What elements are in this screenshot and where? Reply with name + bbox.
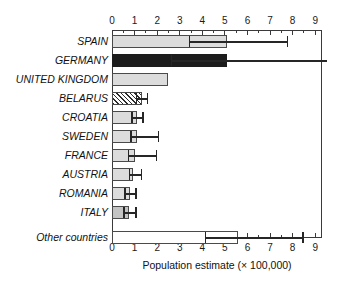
bar-row: AUSTRIA	[0, 165, 358, 184]
error-cap-low-belarus	[136, 93, 138, 104]
category-label-italy: ITALY	[0, 203, 108, 222]
category-label-other-countries: Other countries	[0, 228, 108, 247]
xtick-label-top-8: 8	[285, 16, 301, 26]
error-bar-france	[128, 155, 157, 157]
error-cap-high-france	[156, 150, 158, 161]
error-cap-high-austria	[141, 169, 143, 180]
category-label-germany: GERMANY	[0, 51, 108, 70]
error-cap-low-austria	[129, 169, 131, 180]
category-label-france: FRANCE	[0, 146, 108, 165]
error-cap-low-germany	[171, 55, 173, 66]
error-cap-high-belarus	[147, 93, 149, 104]
xtick-label-top-9: 9	[307, 16, 323, 26]
category-label-romania: ROMANIA	[0, 184, 108, 203]
error-cap-low-spain	[189, 36, 191, 47]
bar-row: CROATIA	[0, 108, 358, 127]
error-bar-sweden	[130, 136, 159, 138]
bar-row: SPAIN	[0, 32, 358, 51]
xtick-label-top-5: 5	[217, 16, 233, 26]
error-cap-high-other-countries	[302, 232, 304, 243]
xtick-label-top-2: 2	[149, 16, 165, 26]
error-bar-other-countries	[205, 237, 304, 239]
error-cap-high-croatia	[142, 112, 144, 123]
population-estimate-chart: 0123456789 0123456789 SPAINGERMANYUNITED…	[0, 0, 358, 282]
bar-row: BELARUS	[0, 89, 358, 108]
xtick-label-top-7: 7	[262, 16, 278, 26]
xtick-label-top-6: 6	[239, 16, 255, 26]
error-cap-high-italy	[135, 207, 137, 218]
error-bar-spain	[189, 41, 288, 43]
bar-row: SWEDEN	[0, 127, 358, 146]
category-label-belarus: BELARUS	[0, 89, 108, 108]
bar-row: Other countries	[0, 228, 358, 247]
xtick-label-top-4: 4	[194, 16, 210, 26]
xtick-label-top-3: 3	[172, 16, 188, 26]
bar-row: UNITED KINGDOM	[0, 70, 358, 89]
bar-row: ITALY	[0, 203, 358, 222]
bar-row: FRANCE	[0, 146, 358, 165]
error-cap-high-romania	[135, 188, 137, 199]
error-cap-high-sweden	[158, 131, 160, 142]
category-label-sweden: SWEDEN	[0, 127, 108, 146]
bar-row: GERMANY	[0, 51, 358, 70]
bar-row: ROMANIA	[0, 184, 358, 203]
error-cap-low-other-countries	[205, 232, 207, 243]
category-label-united-kingdom: UNITED KINGDOM	[0, 70, 108, 89]
error-cap-low-sweden	[130, 131, 132, 142]
xtick-label-top-1: 1	[127, 16, 143, 26]
category-label-croatia: CROATIA	[0, 108, 108, 127]
error-cap-low-france	[128, 150, 130, 161]
error-cap-low-croatia	[131, 112, 133, 123]
category-label-austria: AUSTRIA	[0, 165, 108, 184]
error-bar-germany	[171, 60, 327, 62]
bar-united-kingdom	[112, 73, 168, 86]
error-cap-low-romania	[124, 188, 126, 199]
category-label-spain: SPAIN	[0, 32, 108, 51]
error-cap-high-spain	[287, 36, 289, 47]
error-cap-low-italy	[123, 207, 125, 218]
xtick-label-top-0: 0	[104, 16, 120, 26]
x-axis-title: Population estimate (× 100,000)	[112, 259, 322, 271]
